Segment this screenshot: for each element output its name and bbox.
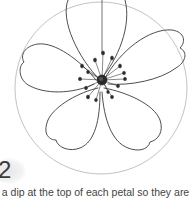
petal-bottom-left [46,88,100,150]
circle-guide [15,2,187,174]
flower-drawing [0,0,194,199]
step-number: 2 [0,156,11,184]
step-caption: t a dip at the top of each petal so they… [0,186,194,199]
petal-right [104,30,185,85]
